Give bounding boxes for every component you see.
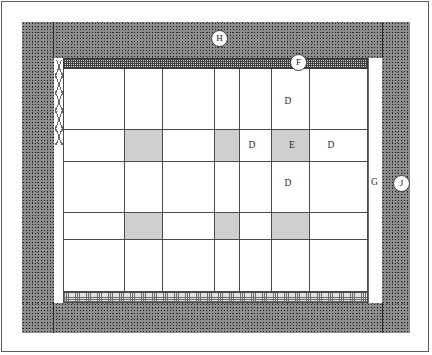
- grid-cell-shaded-r4c6: [272, 213, 310, 240]
- grid-cell-r2c1: [63, 130, 125, 162]
- grid-cell-r3c4: [215, 162, 240, 213]
- left-chain-strip: [55, 60, 63, 145]
- grid-cell-r3c5: [240, 162, 272, 213]
- grid-cell-r4c1: [63, 213, 125, 240]
- grid-cell-r5c5: [240, 240, 272, 292]
- grid-cell-r2c3: [163, 130, 215, 162]
- grid-cell-shaded-r4c4: [215, 213, 240, 240]
- callout-f[interactable]: F: [290, 54, 307, 71]
- grid-cell-r1c4: [215, 69, 240, 130]
- callout-h[interactable]: H: [211, 30, 228, 47]
- bottom-sill-band: [63, 292, 368, 303]
- grid-cell-r5c2: [125, 240, 163, 292]
- cell-label-d-right: D: [324, 138, 338, 152]
- cell-label-d-left: D: [245, 138, 259, 152]
- wall-seam-bottom-left: [53, 303, 54, 333]
- grid-edge-right: [367, 69, 368, 292]
- top-lintel-band: [63, 58, 368, 69]
- grid-cell-r5c7: [310, 240, 368, 292]
- grid-cell-r4c5: [240, 213, 272, 240]
- left-clear-strip: [55, 145, 63, 293]
- callout-j[interactable]: J: [393, 175, 410, 192]
- wall-left: [22, 22, 54, 333]
- cell-label-d-bottom: D: [281, 176, 295, 190]
- grid-cell-r1c7: [310, 69, 368, 130]
- grid-cell-r3c7: [310, 162, 368, 213]
- grid-cell-r4c3: [163, 213, 215, 240]
- grid-cell-r1c2: [125, 69, 163, 130]
- callout-g[interactable]: G: [371, 177, 378, 187]
- grid-cell-hatched-r1c1: [63, 69, 125, 130]
- grid-cell-r5c4: [215, 240, 240, 292]
- grid-cell-r1c3: [163, 69, 215, 130]
- wall-seam-left: [53, 22, 54, 58]
- grid-cell-r3c3: [163, 162, 215, 213]
- wall-seam-right: [382, 22, 383, 58]
- grid-cell-shaded-r2c4: [215, 130, 240, 162]
- grid-cell-r5c1: [63, 240, 125, 292]
- cell-label-e-center: E: [285, 138, 299, 152]
- grid-cell-r5c6: [272, 240, 310, 292]
- wall-seam-bottom-right: [382, 303, 383, 333]
- wall-bottom: [22, 303, 410, 333]
- grid-cell-r3c1: [63, 162, 125, 213]
- figure-canvas: D D E D D H F J G: [0, 0, 432, 355]
- grid-cell-r2c7: [310, 130, 368, 162]
- grid-edge-left: [63, 69, 64, 292]
- grid-edge-bottom: [63, 291, 368, 292]
- grid-cell-shaded-r4c2: [125, 213, 163, 240]
- grid-cell-r3c2: [125, 162, 163, 213]
- cell-grid: [63, 69, 368, 292]
- grid-cell-shaded-r2c2: [125, 130, 163, 162]
- grid-cell-r5c3: [163, 240, 215, 292]
- grid-cell-r1c5: [240, 69, 272, 130]
- cell-label-d-top: D: [281, 94, 295, 108]
- grid-cell-r4c7: [310, 213, 368, 240]
